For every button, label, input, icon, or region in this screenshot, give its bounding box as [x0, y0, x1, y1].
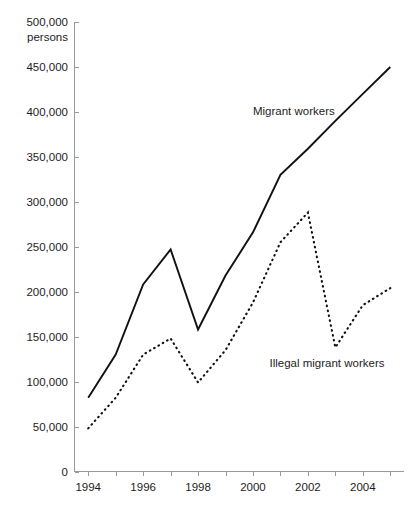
y-axis-tick-labels: 050,000100,000150,000200,000250,000300,0… — [26, 61, 68, 478]
x-tick-label: 2002 — [295, 481, 321, 493]
y-axis-unit-line1: 500,000 — [26, 16, 68, 28]
x-tick-label: 1994 — [75, 481, 101, 493]
y-tick-label: 0 — [62, 466, 68, 478]
y-tick-label: 300,000 — [26, 196, 68, 208]
series-line-illegal-migrant-workers — [88, 213, 390, 429]
y-tick-label: 100,000 — [26, 376, 68, 388]
y-axis-unit-line2: persons — [27, 31, 68, 43]
y-tick-label: 250,000 — [26, 241, 68, 253]
axis-tick-marks — [75, 23, 391, 476]
y-tick-label: 450,000 — [26, 61, 68, 73]
x-tick-label: 1998 — [185, 481, 211, 493]
chart-container: 500,000 persons 050,000100,000150,000200… — [0, 0, 415, 517]
y-tick-label: 200,000 — [26, 286, 68, 298]
series-line-migrant-workers — [88, 67, 390, 398]
x-tick-label: 2000 — [240, 481, 266, 493]
series-label-migrant-workers: Migrant workers — [253, 105, 335, 117]
line-chart: 500,000 persons 050,000100,000150,000200… — [0, 0, 415, 517]
y-tick-label: 400,000 — [26, 106, 68, 118]
y-tick-label: 50,000 — [33, 421, 68, 433]
y-tick-label: 350,000 — [26, 151, 68, 163]
y-axis-unit-label: 500,000 persons — [26, 16, 68, 43]
series-label-illegal-migrant-workers: Illegal migrant workers — [269, 357, 384, 369]
x-tick-label: 1996 — [130, 481, 156, 493]
x-tick-label: 2004 — [350, 481, 376, 493]
x-axis-tick-labels: 199419961998200020022004 — [75, 481, 376, 493]
y-tick-label: 150,000 — [26, 331, 68, 343]
